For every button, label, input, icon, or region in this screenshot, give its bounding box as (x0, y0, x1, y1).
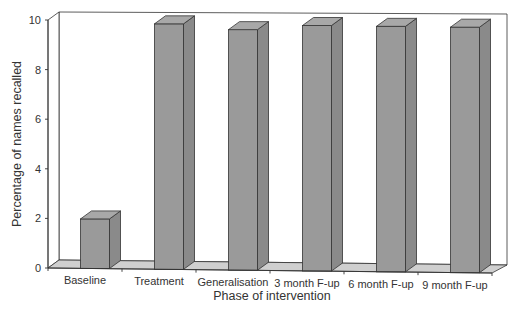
y-tick-label: 4 (35, 163, 41, 175)
x-tick-label: Baseline (64, 274, 106, 286)
bar (451, 19, 491, 273)
bar (81, 211, 121, 269)
bar-front (155, 24, 184, 270)
y-tick-label: 10 (29, 14, 41, 26)
bar-side (258, 22, 269, 271)
bar-side (110, 211, 121, 269)
bar-chart: 0246810 BaselineTreatmentGeneralisation3… (0, 0, 518, 312)
side-wall (48, 12, 59, 268)
y-tick-label: 2 (35, 212, 41, 224)
back-wall (59, 12, 507, 265)
x-tick-label: Treatment (134, 275, 184, 287)
bar-side (332, 18, 343, 272)
y-tick-label: 8 (35, 64, 41, 76)
x-tick-label: 6 month F-up (348, 278, 413, 290)
bar-front (451, 27, 480, 273)
bar-front (303, 26, 332, 272)
bar (229, 22, 269, 271)
bar-side (480, 19, 491, 273)
y-tick-label: 6 (35, 113, 41, 125)
x-tick-label: 9 month F-up (422, 279, 487, 291)
bar-front (377, 26, 406, 272)
bar (155, 16, 195, 270)
x-tick-label: Generalisation (198, 276, 269, 288)
bar-front (81, 219, 110, 269)
bar-side (406, 18, 417, 272)
bar (303, 18, 343, 272)
x-axis-title: Phase of intervention (213, 289, 330, 303)
y-axis-title: Percentage of names recalled (10, 61, 24, 227)
x-tick-label: 3 month F-up (274, 277, 339, 289)
y-axis: 0246810 (29, 14, 48, 274)
y-tick-label: 0 (35, 262, 41, 274)
bar (377, 18, 417, 272)
bar-front (229, 30, 258, 271)
bar-side (184, 16, 195, 270)
